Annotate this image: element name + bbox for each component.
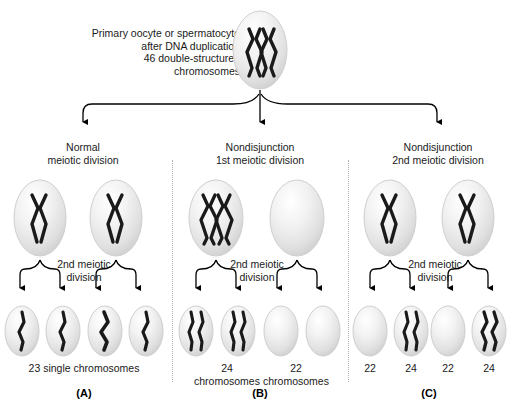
column-b-parent-cell-1 [187,178,245,258]
column-c-parent-cell-2 [440,178,496,258]
column-a-parent-cell-2 [88,178,144,258]
column-c-result-label-1: 22 [350,362,390,375]
column-c-result-label-2: 24 [391,362,431,375]
column-c-daughter-cell-1 [351,305,389,357]
column-b-result-label-2: 22 chromosomes [251,362,341,387]
column-a-daughter-cell-1 [3,305,41,357]
column-c-daughter-cell-3 [429,305,467,357]
column-c-result-label-4: 24 [469,362,509,375]
column-b-daughter-cell-3 [262,305,300,357]
panel-letter-b: (B) [220,387,300,399]
column-heading-a: Normal meiotic division [23,141,143,166]
column-b-parent-cell-2 [268,178,326,258]
column-b-daughter-cell-2 [219,305,257,357]
column-a-parent-cell-1 [12,178,68,258]
column-c-daughter-cell-4 [470,305,508,357]
primary-cell [231,10,289,90]
column-c-result-label-3: 22 [428,362,468,375]
column-b-daughter-cell-1 [177,305,215,357]
panel-letter-a: (A) [44,387,124,399]
column-a-daughter-cell-3 [86,305,124,357]
column-b-daughter-cell-4 [304,305,342,357]
column-a-daughter-cell-4 [127,305,165,357]
column-heading-b: Nondisjunction 1st meiotic division [197,141,323,166]
column-a-result-label: 23 single chromosomes [14,362,154,375]
column-c-daughter-cell-2 [392,305,430,357]
branch-arrow-top [0,88,519,144]
column-a-daughter-cell-2 [44,305,82,357]
meiosis-nondisjunction-diagram: Primary oocyte or spermatocyte after DNA… [0,0,519,415]
column-c-parent-cell-1 [362,178,418,258]
column-heading-c: Nondisjunction 2nd meiotic division [375,141,501,166]
page-title: Primary oocyte or spermatocyte after DNA… [58,27,240,77]
panel-letter-c: (C) [389,387,469,399]
column-c-split-arrows [348,258,519,306]
column-a-split-arrows [0,258,172,306]
column-b-split-arrows [172,258,348,306]
